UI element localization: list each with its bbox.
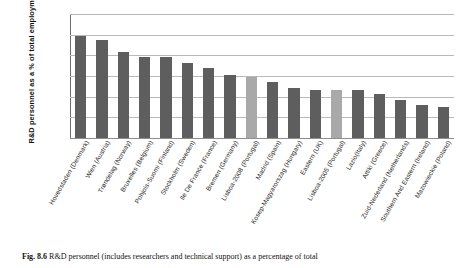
bar: [352, 90, 363, 138]
bar: [331, 90, 342, 138]
bar-series: [70, 14, 454, 138]
x-tick-label: Pohjois-Suomi (Finland): [133, 139, 175, 205]
plot-area: 0123456: [70, 14, 454, 138]
x-axis-tick-labels: Hovedstaden (Denmark)Wien (Austria)Trønd…: [70, 139, 454, 239]
bar: [203, 68, 214, 138]
figure-container: R&D personnel as a % of total employment…: [0, 0, 460, 268]
caption-text: R&D personnel (includes researchers and …: [49, 252, 318, 261]
caption-label: Fig. 8.6: [22, 252, 47, 261]
x-tick-label: Lazio(Italy): [345, 139, 368, 171]
bar: [267, 82, 278, 138]
bar: [416, 105, 427, 138]
bar: [395, 100, 406, 138]
bar: [438, 107, 449, 138]
x-tick-label: Hovedstaden (Denmark): [47, 139, 90, 206]
bar: [374, 94, 385, 138]
bar: [224, 75, 235, 138]
bar: [75, 36, 86, 138]
figure-caption: Fig. 8.6 R&D personnel (includes researc…: [22, 252, 440, 262]
bar: [310, 90, 321, 138]
bar: [288, 88, 299, 138]
bar: [139, 57, 150, 138]
bar: [96, 40, 107, 138]
bar: [118, 52, 129, 138]
bar: [160, 57, 171, 138]
bar: [246, 77, 257, 138]
bar: [182, 63, 193, 138]
y-axis-title: R&D personnel as a % of total employment: [27, 0, 36, 144]
